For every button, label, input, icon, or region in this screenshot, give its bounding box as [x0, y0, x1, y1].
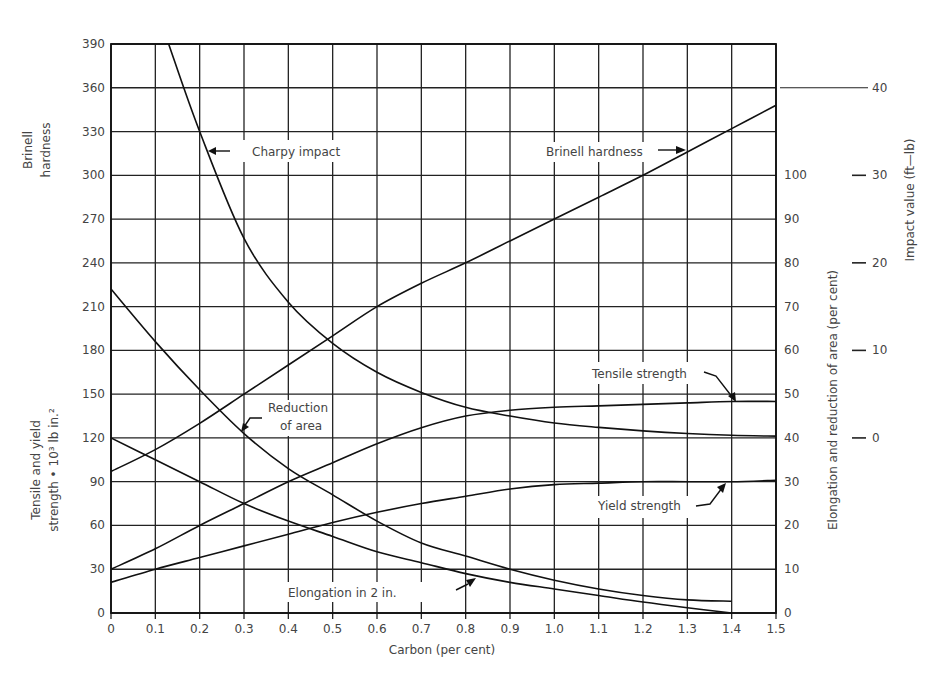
left-tick-label: 150 — [82, 387, 105, 401]
left-tick-label: 270 — [82, 212, 105, 226]
right-tick-label: 70 — [784, 300, 799, 314]
strength-axis-label-1: Tensile and yield — [29, 420, 43, 521]
charpy-label: Charpy impact — [252, 145, 340, 159]
yield-curve-label: Yield strength — [597, 499, 681, 513]
right-tick-label: 50 — [784, 387, 799, 401]
x-tick-label: 0.4 — [279, 622, 298, 636]
impact-tick-label: 40 — [872, 81, 887, 95]
left-tick-label: 300 — [82, 168, 105, 182]
x-tick-label: 0.7 — [412, 622, 431, 636]
x-tick-label: 0.3 — [234, 622, 253, 636]
impact-tick-label: 0 — [872, 431, 880, 445]
left-tick-label: 180 — [82, 343, 105, 357]
elongation-curve-label: Elongation in 2 in. — [288, 586, 397, 600]
right-axis-label: Elongation and reduction of area (per ce… — [826, 270, 840, 530]
reduction-label-1: Reduction — [268, 401, 328, 415]
right-tick-label: 100 — [784, 168, 807, 182]
x-tick-label: 1.0 — [545, 622, 564, 636]
yield-strength-curve — [111, 480, 776, 582]
impact-axis-label: Impact value (ft—lb) — [903, 139, 917, 262]
grid — [111, 44, 776, 619]
reduction-label-2: of area — [280, 419, 322, 433]
left-tick-label: 330 — [82, 125, 105, 139]
x-tick-label: 0.5 — [323, 622, 342, 636]
right-tick-label: 10 — [784, 562, 799, 576]
axis-ticks: 00.10.20.30.40.50.60.70.80.91.01.11.21.3… — [82, 37, 887, 636]
plot-frame — [111, 44, 776, 613]
left-tick-label: 360 — [82, 81, 105, 95]
right-tick-label: 0 — [784, 606, 792, 620]
x-tick-label: 1.1 — [589, 622, 608, 636]
brinell-axis-label-1: Brinell — [21, 131, 35, 169]
left-tick-label: 240 — [82, 256, 105, 270]
left-tick-label: 390 — [82, 37, 105, 51]
tensile-curve-label: Tensile strength — [591, 367, 687, 381]
brinell-curve-label: Brinell hardness — [546, 145, 643, 159]
x-tick-label: 0 — [107, 622, 115, 636]
x-tick-label: 0.8 — [456, 622, 475, 636]
left-tick-label: 210 — [82, 300, 105, 314]
left-tick-label: 120 — [82, 431, 105, 445]
left-tick-label: 0 — [97, 606, 105, 620]
right-tick-label: 90 — [784, 212, 799, 226]
x-tick-label: 1.3 — [678, 622, 697, 636]
impact-tick-label: 30 — [872, 168, 887, 182]
left-tick-label: 30 — [90, 562, 105, 576]
x-tick-label: 1.4 — [722, 622, 741, 636]
x-tick-label: 0.1 — [146, 622, 165, 636]
x-tick-label: 0.6 — [367, 622, 386, 636]
right-tick-label: 60 — [784, 343, 799, 357]
curves — [111, 44, 776, 613]
left-tick-label: 90 — [90, 475, 105, 489]
right-tick-label: 80 — [784, 256, 799, 270]
impact-tick-label: 20 — [872, 256, 887, 270]
brinell-axis-label-2: hardness — [39, 123, 53, 178]
right-tick-label: 30 — [784, 475, 799, 489]
x-tick-label: 1.2 — [633, 622, 652, 636]
impact-tick-label: 10 — [872, 343, 887, 357]
x-tick-label: 1.5 — [766, 622, 785, 636]
strength-axis-label-2: strength • 10³ lb in.² — [47, 408, 61, 532]
x-tick-label: 0.9 — [500, 622, 519, 636]
left-tick-label: 60 — [90, 518, 105, 532]
property-chart: 00.10.20.30.40.50.60.70.80.91.01.11.21.3… — [0, 0, 945, 690]
x-axis-label: Carbon (per cent) — [389, 643, 495, 657]
x-tick-label: 0.2 — [190, 622, 209, 636]
tensile-strength-curve — [111, 401, 776, 569]
right-tick-label: 40 — [784, 431, 799, 445]
right-tick-label: 20 — [784, 518, 799, 532]
